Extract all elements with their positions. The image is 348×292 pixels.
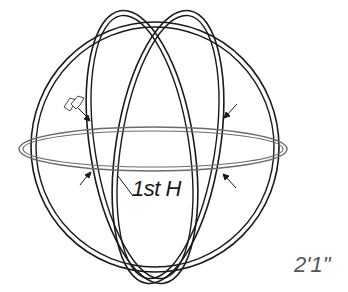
arrow-lower-right xyxy=(223,174,236,188)
label-1st-h: 1st H xyxy=(132,176,181,202)
arrow-lower-left xyxy=(80,172,91,185)
equator-ring xyxy=(19,127,287,171)
sphere-wireframe-diagram xyxy=(0,0,348,292)
arrow-upper-right xyxy=(224,104,237,118)
leader-line-1st-h xyxy=(118,176,133,196)
outer-sphere-ring xyxy=(31,22,279,272)
hand-icon xyxy=(64,96,84,111)
dimension-label: 2'1" xyxy=(294,252,330,278)
arrow-upper-left xyxy=(78,108,90,121)
